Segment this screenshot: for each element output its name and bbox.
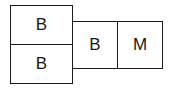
cell-bottom-left: B (10, 44, 73, 84)
cell-label: M (133, 35, 147, 55)
cell-label: B (36, 15, 47, 35)
cell-top-left: B (10, 5, 73, 45)
cell-right: M (117, 21, 163, 69)
cell-label: B (89, 35, 100, 55)
cell-label: B (36, 54, 47, 74)
cell-middle: B (72, 21, 119, 69)
